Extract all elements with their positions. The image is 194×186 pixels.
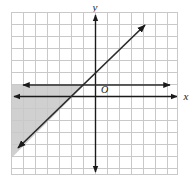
- y-axis-label: y: [92, 1, 98, 13]
- origin-label: O: [101, 84, 108, 95]
- coordinate-plane-figure: y x O: [0, 0, 194, 186]
- graph-canvas: y x O: [0, 0, 194, 186]
- x-axis-label: x: [183, 90, 189, 102]
